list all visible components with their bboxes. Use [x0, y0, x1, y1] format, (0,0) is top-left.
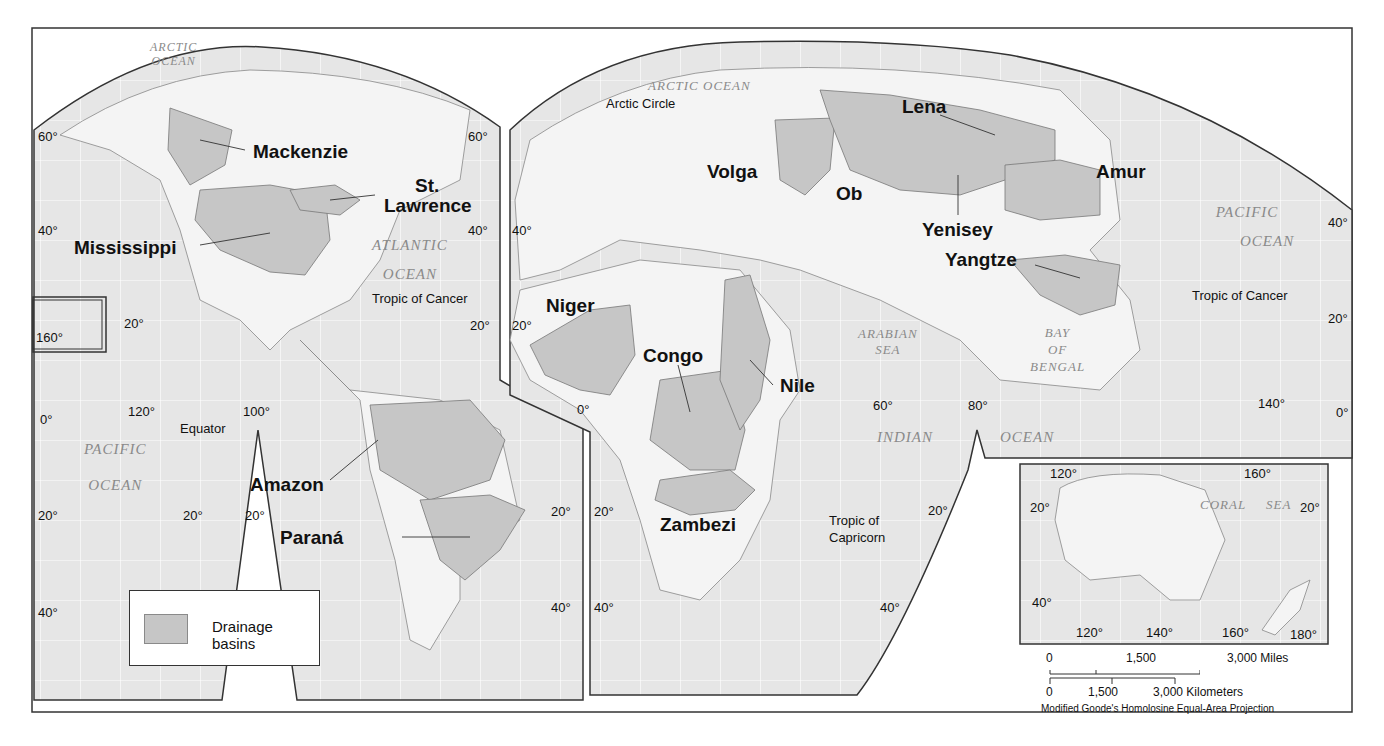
- label-river-lawrence: Lawrence: [384, 196, 472, 215]
- label-river-mississippi: Mississippi: [74, 238, 176, 257]
- label-river-yangtze: Yangtze: [945, 250, 1017, 269]
- deg-lon-120: 120°: [128, 404, 155, 419]
- deg-in-80: 80°: [968, 398, 988, 413]
- label-coral: CORAL: [1200, 495, 1246, 514]
- label-river-nile: Nile: [780, 376, 815, 395]
- deg-far-e-40: 40°: [1328, 215, 1348, 230]
- deg-au-160: 160°: [1244, 466, 1271, 481]
- deg-in-60: 60°: [873, 398, 893, 413]
- deg-w-s40: 40°: [38, 605, 58, 620]
- deg-wr-40: 40°: [468, 223, 488, 238]
- deg-w-40: 40°: [38, 223, 58, 238]
- deg-w-0: 0°: [40, 412, 52, 427]
- deg-au-40: 40°: [1032, 595, 1052, 610]
- deg-w-20: 20°: [124, 316, 144, 331]
- deg-far-e-0: 0°: [1336, 405, 1348, 420]
- label-river-niger: Niger: [546, 296, 595, 315]
- deg-sa-20b: 20°: [183, 508, 203, 523]
- label-river-amazon: Amazon: [250, 475, 324, 494]
- label-pacific-ocean-west: PACIFICOCEAN: [84, 440, 147, 495]
- map-legend: Drainage basins: [129, 590, 320, 666]
- label-river-lena: Lena: [902, 97, 946, 116]
- deg-ne-60: 60°: [468, 129, 488, 144]
- label-river-yenisey: Yenisey: [922, 220, 993, 239]
- label-arctic-circle: Arctic Circle: [606, 96, 675, 111]
- label-equator: Equator: [180, 421, 226, 436]
- deg-nw-60: 60°: [38, 129, 58, 144]
- projection-note: Modified Goode's Homolosine Equal-Area P…: [1041, 703, 1274, 714]
- deg-as-140: 140°: [1258, 396, 1285, 411]
- deg-au-20e: 20°: [1300, 500, 1320, 515]
- scale-miles-3000: 3,000 Miles: [1227, 651, 1288, 665]
- label-bay-of-bengal: BAYOFBENGAL: [1030, 324, 1085, 375]
- label-indian-ocean-word: OCEAN: [1000, 428, 1054, 447]
- deg-af-20-east: 20°: [594, 504, 614, 519]
- legend-label: Drainage basins: [212, 618, 319, 652]
- deg-hawaii-160: 160°: [36, 330, 63, 345]
- deg-af-20-west: 20°: [551, 504, 571, 519]
- deg-wr-20: 20°: [470, 318, 490, 333]
- deg-sa-20a: 20°: [38, 508, 58, 523]
- scale-miles-0: 0: [1046, 651, 1053, 665]
- label-river-amur: Amur: [1096, 162, 1146, 181]
- label-arabian-sea: ARABIANSEA: [858, 326, 918, 358]
- scale-km-1500: 1,500: [1088, 685, 1118, 699]
- label-tropic-cancer-west: Tropic of Cancer: [372, 291, 468, 306]
- deg-lon-100: 100°: [243, 404, 270, 419]
- label-arctic-ocean-west: ARCTICOCEAN: [150, 40, 197, 68]
- label-river-mackenzie: Mackenzie: [253, 142, 348, 161]
- scale-km-0: 0: [1046, 685, 1053, 699]
- label-river-congo: Congo: [643, 346, 703, 365]
- deg-e-40: 40°: [512, 223, 532, 238]
- label-tropic-capricorn: Tropic ofCapricorn: [829, 512, 885, 546]
- scale-km-3000: 3,000 Kilometers: [1153, 685, 1243, 699]
- label-river-ob: Ob: [836, 184, 862, 203]
- deg-in-20: 20°: [928, 503, 948, 518]
- deg-e-20: 20°: [512, 318, 532, 333]
- deg-af-40: 40°: [594, 600, 614, 615]
- deg-in-40: 40°: [880, 600, 900, 615]
- label-river-parana: Paraná: [280, 528, 343, 547]
- label-arctic-ocean-east: ARCTIC OCEAN: [648, 76, 751, 95]
- label-river-zambezi: Zambezi: [660, 515, 736, 534]
- deg-au-20w: 20°: [1030, 500, 1050, 515]
- deg-au-120: 120°: [1050, 466, 1077, 481]
- label-river-st: St.: [415, 176, 439, 195]
- label-sea: SEA: [1266, 495, 1291, 514]
- scale-miles-1500: 1,500: [1126, 651, 1156, 665]
- deg-sa-20c: 20°: [245, 508, 265, 523]
- deg-au-140b: 140°: [1146, 625, 1173, 640]
- deg-au-160b: 160°: [1222, 625, 1249, 640]
- label-atlantic-ocean: ATLANTICOCEAN: [372, 236, 448, 284]
- deg-e-0: 0°: [577, 402, 589, 417]
- deg-far-e-20: 20°: [1328, 311, 1348, 326]
- deg-sa-s40: 40°: [551, 600, 571, 615]
- label-tropic-cancer-east: Tropic of Cancer: [1192, 288, 1288, 303]
- basin-amur: [1005, 160, 1100, 220]
- label-pacific-ocean-east: PACIFICOCEAN: [1200, 203, 1294, 251]
- deg-au-180: 180°: [1290, 627, 1317, 642]
- legend-swatch-drainage: [144, 614, 188, 644]
- deg-au-120b: 120°: [1076, 625, 1103, 640]
- label-river-volga: Volga: [707, 162, 757, 181]
- label-indian: INDIAN: [877, 428, 933, 447]
